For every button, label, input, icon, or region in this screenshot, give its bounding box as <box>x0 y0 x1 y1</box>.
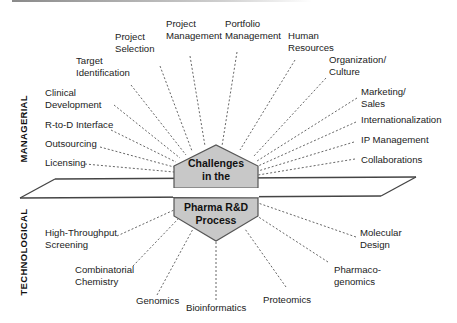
label-text: High-Throughput <box>45 227 117 239</box>
label-text: Human <box>288 30 334 42</box>
label-text: Target <box>76 55 130 67</box>
label-target-identification: Target Identification <box>76 55 130 79</box>
label-r-to-d-interface: R-to-D Interface <box>45 119 113 131</box>
center-title-line4: Process <box>174 214 258 227</box>
label-text: Licensing <box>45 157 86 169</box>
label-text: Marketing/ <box>361 86 406 98</box>
label-text: Project <box>115 31 154 43</box>
label-internationalization: Internationalization <box>361 114 442 126</box>
label-text: Development <box>45 99 102 111</box>
label-clinical-development: Clinical Development <box>45 87 102 111</box>
label-portfolio-management: Portfolio Management <box>225 18 281 42</box>
center-title-bottom: Pharma R&D Process <box>174 201 258 227</box>
label-text: Bioinformatics <box>186 302 246 314</box>
label-text: Outsourcing <box>45 138 97 150</box>
label-organization-culture: Organization/ Culture <box>329 54 386 78</box>
center-title-line1: Challenges <box>174 157 258 170</box>
center-title-line2: in the <box>174 170 258 183</box>
label-text: Organization/ <box>329 54 386 66</box>
label-text: Molecular <box>360 227 402 239</box>
label-text: Chemistry <box>75 276 134 288</box>
label-text: Internationalization <box>361 114 442 126</box>
center-title-line3: Pharma R&D <box>174 201 258 214</box>
label-text: IP Management <box>361 134 429 146</box>
label-text: Management <box>166 30 222 42</box>
label-bioinformatics: Bioinformatics <box>186 302 246 314</box>
label-marketing-sales: Marketing/ Sales <box>361 86 406 110</box>
label-text: Project <box>166 18 222 30</box>
managerial-side-label: MANAGERIAL <box>18 97 29 163</box>
label-project-selection: Project Selection <box>115 31 154 55</box>
label-text: Management <box>225 30 281 42</box>
label-text: Screening <box>45 239 117 251</box>
label-project-management: Project Management <box>166 18 222 42</box>
label-text: Combinatorial <box>75 264 134 276</box>
label-text: Selection <box>115 43 154 55</box>
label-genomics: Genomics <box>136 295 179 307</box>
label-text: R-to-D Interface <box>45 119 113 131</box>
label-pharmacogenomics: Pharmaco- genomics <box>334 264 381 288</box>
label-high-throughput-screening: High-Throughput Screening <box>45 227 117 251</box>
label-text: Sales <box>361 98 406 110</box>
label-text: Genomics <box>136 295 179 307</box>
label-text: Proteomics <box>263 294 311 306</box>
label-combinatorial-chemistry: Combinatorial Chemistry <box>75 264 134 288</box>
label-text: Clinical <box>45 87 102 99</box>
label-text: genomics <box>334 276 381 288</box>
technological-side-label: TECHNOLOGICAL <box>18 212 29 296</box>
label-outsourcing: Outsourcing <box>45 138 97 150</box>
label-text: Pharmaco- <box>334 264 381 276</box>
center-title-top: Challenges in the <box>174 157 258 183</box>
label-proteomics: Proteomics <box>263 294 311 306</box>
label-collaborations: Collaborations <box>361 154 422 166</box>
label-licensing: Licensing <box>45 157 86 169</box>
label-molecular-design: Molecular Design <box>360 227 402 251</box>
label-text: Portfolio <box>225 18 281 30</box>
label-text: Resources <box>288 42 334 54</box>
label-human-resources: Human Resources <box>288 30 334 54</box>
label-ip-management: IP Management <box>361 134 429 146</box>
label-text: Identification <box>76 67 130 79</box>
label-text: Design <box>360 239 402 251</box>
label-text: Collaborations <box>361 154 422 166</box>
label-text: Culture <box>329 66 386 78</box>
